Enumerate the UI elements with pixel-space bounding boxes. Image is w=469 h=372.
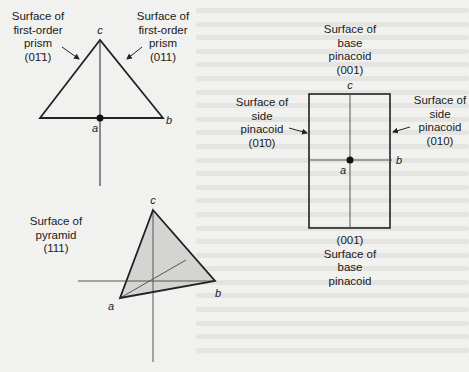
- label-line: (01̄1): [12, 51, 64, 65]
- label-line: Surface of: [236, 96, 288, 110]
- label-line: pyramid: [30, 229, 82, 243]
- pinacoid-axis-b: b: [396, 154, 402, 166]
- crystal-diagram: [0, 0, 469, 372]
- label-line: Surface of: [137, 10, 189, 24]
- label-line: side: [236, 110, 288, 124]
- base-pinacoid-bottom-label: (001̄) Surface of base pinacoid: [324, 234, 376, 288]
- first-order-prism-right-label: Surface of first-order prism (011): [137, 10, 189, 64]
- side-pinacoid-right-label: Surface of side pinacoid (010): [414, 94, 466, 148]
- pyramid-axis-c: c: [150, 194, 156, 206]
- label-line: first-order: [12, 24, 64, 38]
- label-line: base: [324, 37, 376, 51]
- label-line: (010): [414, 135, 466, 149]
- prism-axis-a: a: [92, 122, 98, 134]
- label-line: pinacoid: [236, 123, 288, 137]
- label-line: Surface of: [414, 94, 466, 108]
- label-line: (011): [137, 51, 189, 65]
- label-line: side: [414, 108, 466, 122]
- pinacoid-axis-a: a: [340, 164, 346, 176]
- pyramid-axis-a: a: [108, 300, 114, 312]
- label-line: pinacoid: [414, 121, 466, 135]
- label-line: pinacoid: [324, 50, 376, 64]
- label-line: (001): [324, 64, 376, 78]
- first-order-prism-left-label: Surface of first-order prism (01̄1): [12, 10, 64, 64]
- pinacoid-rectangle: [289, 94, 410, 228]
- pyramid-face: [78, 210, 215, 362]
- label-line: (01̄0): [236, 137, 288, 151]
- label-line: Surface of: [30, 215, 82, 229]
- label-line: Surface of: [12, 10, 64, 24]
- pyramid-label: Surface of pyramid (111): [30, 215, 82, 256]
- label-line: Surface of: [324, 23, 376, 37]
- label-line: (001̄): [324, 234, 376, 248]
- label-line: pinacoid: [324, 275, 376, 289]
- label-line: first-order: [137, 24, 189, 38]
- pyramid-axis-b: b: [215, 287, 221, 299]
- label-line: prism: [12, 37, 64, 51]
- pinacoid-axis-c: c: [347, 79, 353, 91]
- label-line: prism: [137, 37, 189, 51]
- label-line: (111): [30, 242, 82, 256]
- label-line: Surface of: [324, 248, 376, 262]
- base-pinacoid-top-label: Surface of base pinacoid (001): [324, 23, 376, 77]
- prism-axis-b: b: [166, 114, 172, 126]
- prism-axis-c: c: [97, 24, 103, 36]
- side-pinacoid-left-label: Surface of side pinacoid (01̄0): [236, 96, 288, 150]
- label-line: base: [324, 261, 376, 275]
